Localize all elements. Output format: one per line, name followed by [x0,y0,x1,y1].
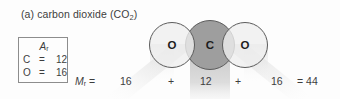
ar-row-carbon-value: 12 [50,54,67,65]
mr-label-equals: = [89,75,95,87]
atom-oxygen-left: O [149,22,195,68]
ar-row-oxygen-element: O [23,67,34,78]
mr-label-subscript: r [84,80,86,87]
atom-oxygen-right-label: O [240,39,249,51]
ar-row-oxygen-equals: = [37,67,47,78]
atom-oxygen-left-label: O [167,39,176,51]
equation-total: = 44 [297,75,318,87]
atom-carbon-label: C [206,39,215,51]
equation-term-oxygen-left: 16 [120,75,132,87]
ar-row-carbon-equals: = [37,54,47,65]
mr-label: Mr= [75,75,95,87]
ar-row-oxygen-value: 16 [50,67,67,78]
relative-atomic-mass-box: Ar C = 12 O = 16 [18,37,68,83]
ar-row-oxygen: O = 16 [23,67,67,78]
atom-oxygen-right: O [222,22,268,68]
equation-term-oxygen-right: 16 [271,75,283,87]
ar-box-title-subscript: r [46,45,48,52]
ar-box-title: Ar [19,41,69,52]
mr-label-symbol: M [75,75,84,87]
equation-plus-second: + [235,75,241,87]
figure-container: (a) carbon dioxide (CO2) [0,0,340,99]
equation-term-carbon: 12 [200,75,212,87]
ar-row-carbon: C = 12 [23,54,67,65]
equation-plus-first: + [168,75,174,87]
ar-row-carbon-element: C [23,54,34,65]
